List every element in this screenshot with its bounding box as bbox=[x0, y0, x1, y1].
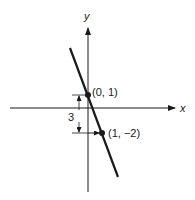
point-0-1-label: (0, 1) bbox=[92, 86, 118, 98]
x-axis-label: x bbox=[179, 102, 186, 114]
point-1-neg2 bbox=[99, 130, 105, 136]
graph-line bbox=[70, 48, 118, 177]
y-axis-label: y bbox=[83, 10, 91, 22]
coordinate-diagram: x y (0, 1) (1, −2) 3 bbox=[0, 0, 195, 200]
rise-label: 3 bbox=[68, 111, 74, 123]
point-1-neg2-label: (1, −2) bbox=[108, 127, 140, 139]
